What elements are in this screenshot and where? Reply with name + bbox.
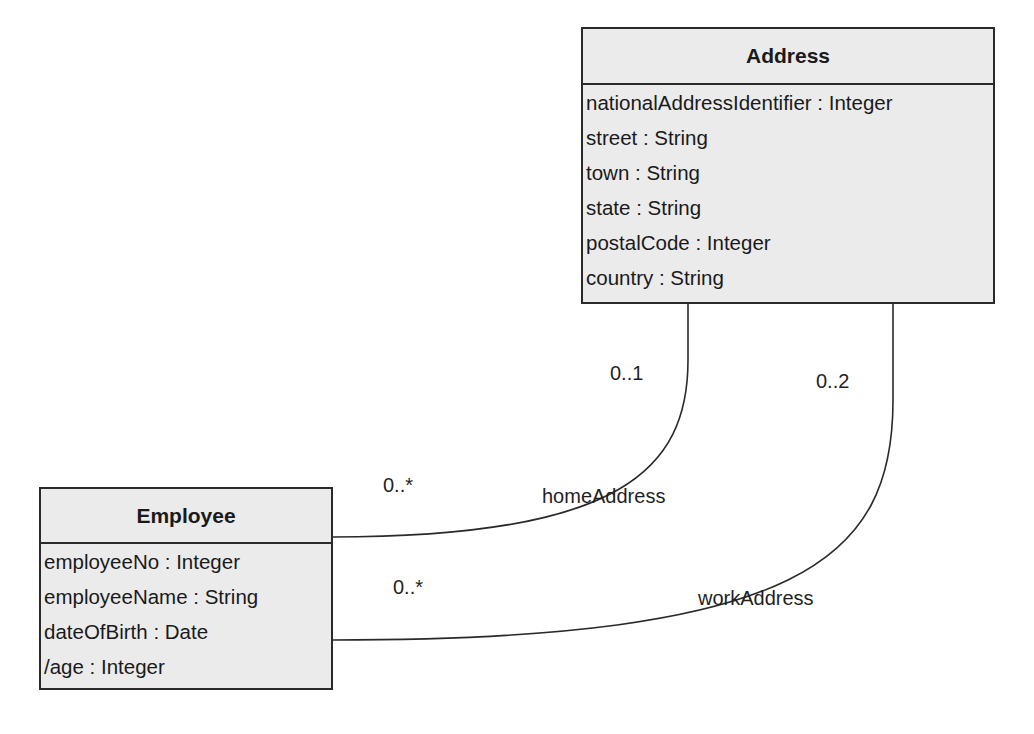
attribute-town: town : String [586, 155, 993, 190]
attribute-employee-no: employeeNo : Integer [44, 544, 331, 579]
employee-class-header: Employee [41, 489, 331, 544]
attribute-postal-code: postalCode : Integer [586, 225, 993, 260]
home-address-multiplicity-address-end: 0..1 [610, 362, 643, 385]
employee-attributes: employeeNo : Integer employeeName : Stri… [41, 544, 331, 684]
work-address-role-label: workAddress [698, 587, 814, 610]
home-address-multiplicity-employee-end: 0..* [383, 474, 413, 497]
work-address-multiplicity-address-end: 0..2 [816, 370, 849, 393]
attribute-street: street : String [586, 120, 993, 155]
attribute-country: country : String [586, 260, 993, 295]
address-class-name: Address [746, 44, 830, 67]
attribute-employee-name: employeeName : String [44, 579, 331, 614]
work-address-multiplicity-employee-end: 0..* [393, 576, 423, 599]
address-class-box[interactable]: Address nationalAddressIdentifier : Inte… [581, 27, 995, 304]
address-class-header: Address [583, 29, 993, 85]
employee-class-box[interactable]: Employee employeeNo : Integer employeeNa… [39, 487, 333, 690]
attribute-national-address-identifier: nationalAddressIdentifier : Integer [586, 85, 993, 120]
attribute-date-of-birth: dateOfBirth : Date [44, 614, 331, 649]
attribute-age: /age : Integer [44, 649, 331, 684]
employee-class-name: Employee [136, 504, 235, 527]
attribute-state: state : String [586, 190, 993, 225]
home-address-role-label: homeAddress [542, 485, 665, 508]
address-attributes: nationalAddressIdentifier : Integer stre… [583, 85, 993, 295]
